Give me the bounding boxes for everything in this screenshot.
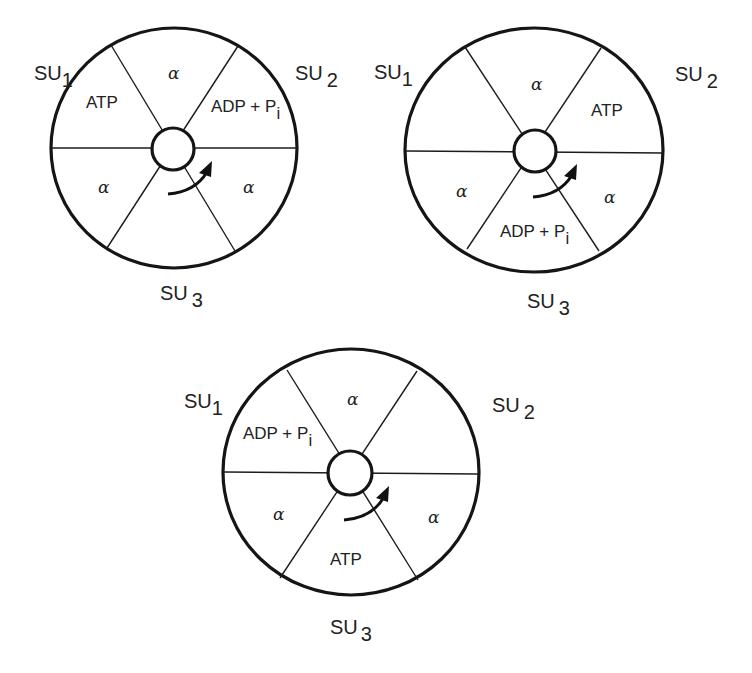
- su1-label: SU1: [184, 390, 223, 419]
- sector-top-label: α: [168, 63, 180, 83]
- su2-label: SU2: [492, 394, 535, 423]
- sector-upper-right-label: ADP + Pi: [211, 97, 280, 123]
- sector-top-label: α: [347, 389, 359, 409]
- arrowhead-icon: [564, 164, 577, 180]
- central-hub: [328, 451, 372, 495]
- sector-lower-left-label: α: [456, 181, 468, 201]
- su2-label: SU2: [295, 62, 338, 91]
- sector-upper-right-label: ATP: [591, 101, 623, 120]
- su1-label: SU1: [34, 62, 73, 91]
- sector-lower-right-label: α: [243, 177, 255, 197]
- sector-bottom-label: ADP + Pi: [500, 222, 569, 248]
- diagram-state-1: α ATP ADP + Pi α α SU1 SU2 SU3: [34, 28, 338, 311]
- rotation-arrow-icon: [168, 172, 207, 194]
- sector-lower-right-label: α: [428, 507, 440, 527]
- su2-label: SU2: [675, 63, 718, 92]
- sector-bottom-label: ATP: [330, 550, 362, 569]
- sector-lower-left-label: α: [98, 177, 110, 197]
- su3-label: SU3: [527, 290, 570, 319]
- central-hub: [152, 128, 194, 170]
- sector-upper-left-label: ADP + Pi: [243, 424, 312, 450]
- rotation-arrow-icon: [533, 175, 572, 197]
- su3-label: SU3: [160, 282, 203, 311]
- su1-label: SU1: [374, 61, 413, 90]
- arrowhead-icon: [376, 486, 389, 502]
- sector-upper-left-label: ATP: [86, 93, 118, 112]
- diagram-state-2: α ATP α α ADP + Pi SU1 SU2 SU3: [374, 28, 718, 319]
- sector-top-label: α: [531, 74, 543, 94]
- binding-change-figure: α ATP ADP + Pi α α SU1 SU2 SU3 α ATP α α…: [0, 0, 752, 673]
- central-hub: [514, 130, 556, 172]
- diagram-state-3: α ADP + Pi α α ATP SU1 SU2 SU3: [184, 349, 535, 645]
- sector-lower-left-label: α: [273, 504, 285, 524]
- arrowhead-icon: [199, 161, 212, 177]
- su3-label: SU3: [330, 616, 372, 645]
- sector-lower-right-label: α: [604, 187, 616, 207]
